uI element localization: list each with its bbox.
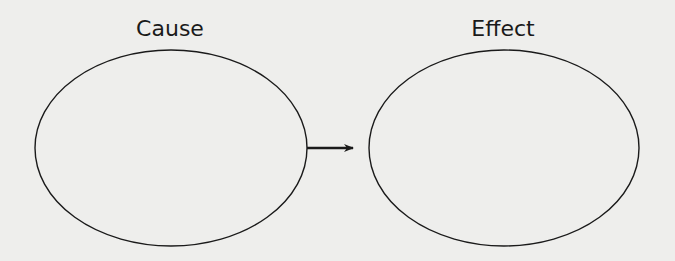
diagram-canvas [0, 0, 675, 261]
cause-ellipse [35, 50, 307, 246]
effect-ellipse [369, 50, 639, 246]
